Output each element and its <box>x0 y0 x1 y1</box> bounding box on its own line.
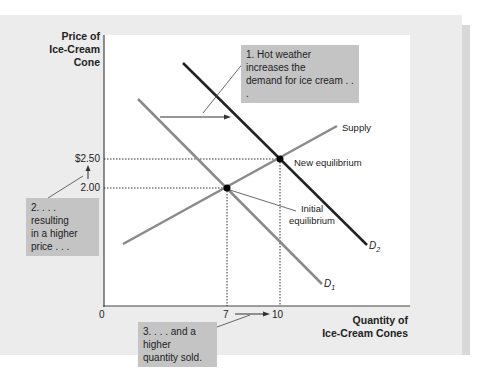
d1-label: D1 <box>324 278 335 294</box>
new-equilibrium-label: New equilibrium <box>294 157 362 169</box>
initial-equilibrium-point <box>224 185 231 192</box>
callout-3-leader <box>217 315 250 327</box>
y-tick-2-50: $2.50 <box>70 153 100 165</box>
callout-higher-price: 2. . . . resulting in a higher price . .… <box>26 198 99 256</box>
x-tick-10: 10 <box>272 309 283 321</box>
y-axis-title: Price of Ice-Cream Cone <box>40 30 100 69</box>
d2-label: D2 <box>369 240 380 256</box>
y-tick-2-00: 2.00 <box>70 182 100 194</box>
price-arrowhead-icon <box>86 165 91 171</box>
callout-higher-quantity: 3. . . . and a higher quantity sold. <box>138 322 217 367</box>
x-tick-7: 7 <box>223 309 229 321</box>
x-axis-title: Quantity of Ice-Cream Cones <box>300 314 408 340</box>
demand-curve-d1 <box>138 99 322 284</box>
quantity-arrowhead-icon <box>263 312 270 317</box>
new-equilibrium-point <box>277 156 284 163</box>
origin-label: 0 <box>99 309 105 321</box>
shift-arrowhead-icon <box>224 115 231 120</box>
callout-demand-increase: 1. Hot weather increases the demand for … <box>241 45 359 103</box>
initial-equilibrium-label: Initial equilibrium <box>289 203 335 227</box>
supply-label: Supply <box>342 122 371 134</box>
